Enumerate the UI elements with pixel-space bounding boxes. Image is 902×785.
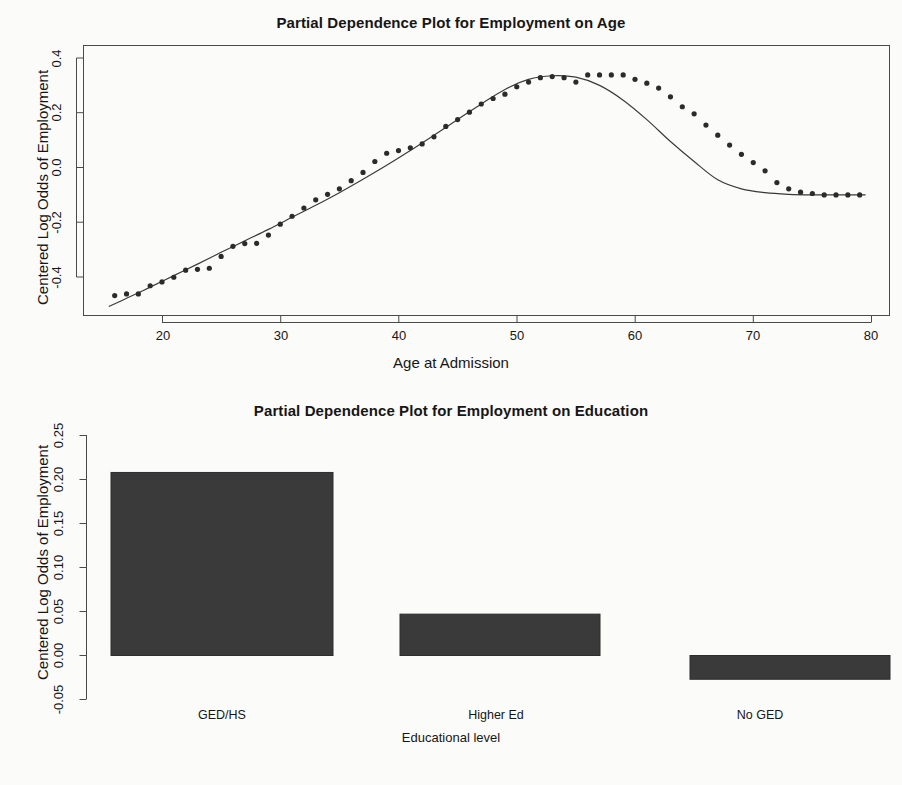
age-ytick-1: 0.2 bbox=[49, 97, 64, 129]
age-plot-y-axis bbox=[77, 58, 84, 277]
age-xtick-4: 60 bbox=[620, 328, 650, 343]
age-plot-frame bbox=[84, 46, 890, 316]
education-category-label-higher-ed: Higher Ed bbox=[426, 708, 566, 722]
education-bar bbox=[690, 656, 890, 680]
age-smoothed-fit-line bbox=[109, 76, 866, 307]
age-xtick-3: 50 bbox=[502, 328, 532, 343]
page-footer-ghost-text bbox=[0, 776, 902, 785]
age-ytick-0: 0.4 bbox=[49, 43, 64, 75]
education-ytick-2: 0.15 bbox=[51, 504, 66, 544]
education-ytick-1: 0.20 bbox=[51, 460, 66, 500]
education-bars bbox=[111, 472, 890, 679]
age-ytick-3: -0.2 bbox=[49, 203, 64, 243]
education-category-label-no-ged: No GED bbox=[690, 708, 830, 722]
partial-dependence-education-figure: Partial Dependence Plot for Employment o… bbox=[0, 390, 902, 785]
education-bar bbox=[400, 614, 600, 655]
education-ytick-5: 0.00 bbox=[51, 636, 66, 676]
education-ytick-3: 0.10 bbox=[51, 548, 66, 588]
age-xtick-0: 20 bbox=[148, 328, 178, 343]
age-xtick-2: 40 bbox=[384, 328, 414, 343]
age-data-points bbox=[112, 72, 862, 298]
education-ytick-6: -0.05 bbox=[51, 676, 66, 724]
age-xtick-6: 80 bbox=[856, 328, 886, 343]
partial-dependence-age-figure: Partial Dependence Plot for Employment o… bbox=[0, 0, 902, 400]
education-bar bbox=[111, 472, 333, 655]
education-plot-y-axis bbox=[80, 435, 87, 700]
age-xtick-1: 30 bbox=[266, 328, 296, 343]
age-ytick-2: 0.0 bbox=[49, 152, 64, 184]
education-plot-canvas bbox=[0, 390, 902, 785]
age-ytick-4: -0.4 bbox=[49, 258, 64, 298]
age-plot-x-axis bbox=[162, 316, 872, 323]
age-xtick-5: 70 bbox=[738, 328, 768, 343]
education-category-label-ged-hs: GED/HS bbox=[152, 708, 292, 722]
education-ytick-4: 0.05 bbox=[51, 592, 66, 632]
education-ytick-0: 0.25 bbox=[51, 416, 66, 456]
education-plot-x-axis-label: Educational level bbox=[0, 730, 902, 745]
